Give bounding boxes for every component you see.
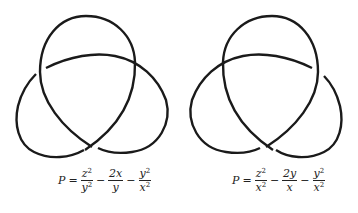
minus-sign: −: [270, 174, 279, 187]
right-polynomial-formula: P = z2 x2 − 2y x − y2 x2: [232, 168, 327, 193]
knot-strand-upper-arc: [190, 55, 312, 153]
knot-strand-right-lobe: [276, 76, 341, 157]
term-1: z2 x2: [255, 168, 267, 193]
formula-lhs: P: [232, 174, 239, 187]
right-trefoil-knot: [180, 0, 358, 165]
minus-sign: −: [300, 174, 309, 187]
knot-strand-left-lobe: [17, 74, 84, 157]
knot-strand-top-loop: [40, 16, 135, 150]
term-3: y2 x2: [139, 168, 152, 193]
formula-lhs: P: [58, 174, 65, 187]
term-2: 2x y: [108, 168, 123, 193]
minus-sign: −: [126, 174, 135, 187]
left-trefoil-knot: [0, 0, 180, 165]
term-1: z2 y2: [81, 168, 93, 193]
formula-equals: =: [242, 174, 251, 187]
term-3: y2 x2: [313, 168, 326, 193]
knot-strand-upper-arc: [46, 55, 168, 153]
term-2: 2y x: [282, 168, 297, 193]
minus-sign: −: [96, 174, 105, 187]
formula-equals: =: [68, 174, 77, 187]
knot-strand-top-loop: [223, 16, 318, 150]
left-polynomial-formula: P = z2 y2 − 2x y − y2 x2: [58, 168, 153, 193]
